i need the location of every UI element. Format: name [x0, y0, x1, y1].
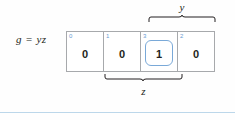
karnaugh-map-grid: 0 0 1 0 3 1 2 0	[66, 31, 215, 72]
cell-index-label: 3	[143, 32, 146, 40]
cell-index-label: 1	[106, 32, 109, 40]
cell-index-label: 2	[180, 32, 183, 40]
cell-value: 0	[82, 48, 88, 60]
footer-divider	[0, 112, 235, 113]
brace-z-label: z	[104, 85, 183, 97]
kmap-figure: g = yz 0 0 1 0 3 1 2 0 y z	[0, 0, 235, 120]
kmap-cell-2: 2 0	[178, 32, 214, 71]
kmap-cell-1: 1 0	[104, 32, 141, 71]
kmap-cell-3: 3 1	[141, 32, 178, 71]
kmap-cell-0: 0 0	[67, 32, 104, 71]
brace-z-icon	[104, 73, 183, 82]
cell-value: 0	[193, 48, 199, 60]
cell-value: 1	[156, 48, 162, 60]
brace-y-label: y	[148, 1, 216, 13]
cell-index-label: 0	[69, 32, 72, 40]
brace-y-icon	[148, 14, 216, 23]
cell-value: 0	[119, 48, 125, 60]
function-equation: g = yz	[16, 33, 47, 45]
